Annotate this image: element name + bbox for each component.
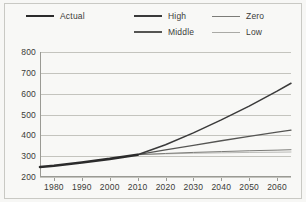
x-tick-label: 1990	[72, 183, 92, 192]
x-tick-label: 2040	[211, 183, 231, 192]
series-line-high	[138, 83, 291, 154]
x-tick-label: 2020	[156, 183, 176, 192]
y-tick-label: 600	[6, 90, 36, 99]
x-tick-label: 2010	[128, 183, 148, 192]
plot-area	[40, 52, 291, 177]
legend-label-zero: Zero	[246, 12, 264, 21]
x-tick-mark	[249, 178, 250, 181]
x-tick-mark	[54, 178, 55, 181]
x-tick-mark	[82, 178, 83, 181]
legend-label-high: High	[168, 12, 186, 21]
x-tick-mark	[221, 178, 222, 181]
x-tick-mark	[193, 178, 194, 181]
x-tick-label: 2060	[267, 183, 287, 192]
x-tick-label: 2000	[100, 183, 120, 192]
legend-column: ZeroLow	[212, 8, 264, 40]
legend-item-low[interactable]: Low	[212, 24, 264, 40]
x-tick-label: 2050	[239, 183, 259, 192]
y-tick-label: 300	[6, 152, 36, 161]
legend-item-middle[interactable]: Middle	[134, 24, 194, 40]
y-tick-label: 700	[6, 69, 36, 78]
x-axis: 198019902000201020202030204020502060	[40, 178, 291, 196]
legend-line-swatch-middle	[134, 31, 162, 32]
series-line-actual	[40, 155, 138, 167]
legend-item-actual[interactable]: Actual	[26, 8, 85, 24]
legend-line-swatch-low	[212, 32, 240, 33]
x-tick-mark	[110, 178, 111, 181]
x-tick-mark	[277, 178, 278, 181]
y-tick-label: 400	[6, 131, 36, 140]
y-tick-label: 800	[6, 48, 36, 57]
x-tick-mark	[138, 178, 139, 181]
legend-line-swatch-actual	[26, 15, 54, 18]
y-tick-label: 500	[6, 111, 36, 120]
legend-label-middle: Middle	[168, 28, 194, 37]
legend-column: HighMiddle	[134, 8, 194, 40]
legend-label-low: Low	[246, 28, 262, 37]
legend-item-zero[interactable]: Zero	[212, 8, 264, 24]
legend-line-swatch-high	[134, 15, 162, 17]
legend-label-actual: Actual	[60, 12, 85, 21]
series-lines	[40, 52, 291, 177]
x-tick-mark	[166, 178, 167, 181]
legend-column: Actual	[26, 8, 85, 24]
x-tick-label: 1980	[44, 183, 64, 192]
y-axis: 200300400500600700800	[4, 52, 36, 177]
legend-item-high[interactable]: High	[134, 8, 194, 24]
chart-legend: ActualHighMiddleZeroLow	[26, 8, 288, 42]
y-tick-label: 200	[6, 173, 36, 182]
legend-line-swatch-zero	[212, 16, 240, 17]
series-line-middle	[138, 130, 291, 155]
chart-figure: ActualHighMiddleZeroLow 2003004005006007…	[0, 0, 306, 202]
x-tick-label: 2030	[184, 183, 204, 192]
